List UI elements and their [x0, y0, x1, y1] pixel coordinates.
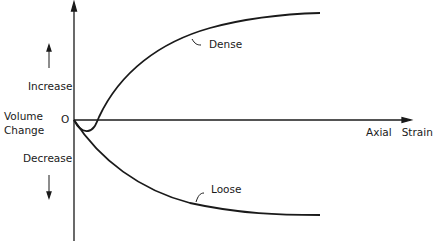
y-axis-label-line1: Volume — [4, 110, 43, 122]
increase-label: Increase — [28, 80, 72, 92]
increase-arrow-icon — [47, 45, 51, 51]
decrease-label: Decrease — [23, 152, 72, 164]
y-axis-label-line2: Change — [4, 124, 44, 136]
loose-leader-line — [196, 193, 204, 202]
loose-curve-label: Loose — [211, 183, 241, 195]
origin-label: O — [61, 113, 69, 125]
dense-leader-line — [192, 39, 201, 45]
x-axis-label: Axial Strain — [366, 126, 433, 138]
dense-curve — [74, 13, 320, 131]
decrease-arrow-icon — [47, 192, 51, 198]
dense-curve-label: Dense — [209, 38, 242, 50]
x-axis-arrow-icon — [402, 118, 411, 123]
y-axis-arrow-icon — [72, 2, 77, 11]
loose-curve — [74, 120, 320, 215]
